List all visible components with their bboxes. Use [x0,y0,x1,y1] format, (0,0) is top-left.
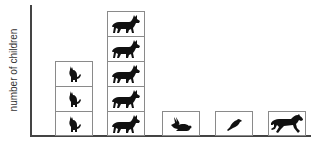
column-rabbit [162,111,200,136]
pictograph-chart: number of children [0,0,319,146]
dog-cell [107,11,145,36]
dog-icon [111,14,141,34]
dog-icon [111,89,141,109]
dog-icon [111,64,141,84]
dog-cell [107,86,145,111]
column-cat [55,61,93,136]
cat-icon [66,90,82,108]
dog-cell [107,111,145,136]
horse-icon [270,114,304,134]
dog-icon [111,39,141,59]
cat-cell [55,111,93,136]
column-bird [215,111,253,136]
rabbit-cell [162,111,200,136]
column-dog [107,11,145,136]
horse-cell [268,111,306,136]
bird-cell [215,111,253,136]
rabbit-icon [170,116,192,132]
cat-icon [66,115,82,133]
cat-icon [66,65,82,83]
dog-cell [107,61,145,86]
y-axis-label: number of children [8,29,19,112]
dog-icon [111,114,141,134]
y-axis-line [30,5,32,136]
cat-cell [55,61,93,86]
cat-cell [55,86,93,111]
bird-icon [225,117,243,131]
dog-cell [107,36,145,61]
column-horse [268,111,306,136]
